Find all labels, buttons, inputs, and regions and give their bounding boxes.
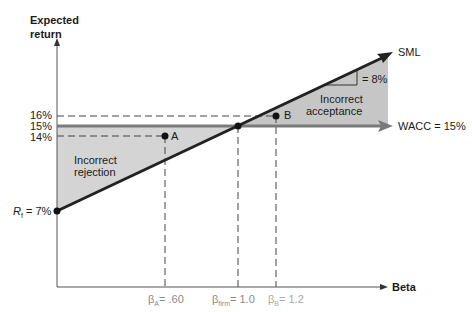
point-b-label: B bbox=[284, 109, 291, 122]
beta-firm-sub: firm bbox=[218, 300, 230, 307]
beta-a-value: = .60 bbox=[159, 293, 184, 305]
beta-b-label: βB= 1.2 bbox=[268, 293, 304, 310]
wacc-label: WACC = 15% bbox=[398, 120, 466, 133]
beta-a-label: βA= .60 bbox=[148, 293, 184, 310]
slope-annotation: = 8% bbox=[362, 73, 387, 86]
y-axis-label-line2: return bbox=[30, 28, 62, 41]
x-axis-arrow-icon bbox=[380, 284, 388, 290]
point-firm bbox=[235, 123, 242, 130]
rf-symbol: R bbox=[13, 205, 21, 217]
incorrect-acceptance-line2: acceptance bbox=[306, 105, 362, 118]
beta-firm-label: βfirm= 1.0 bbox=[212, 293, 255, 310]
point-a-label: A bbox=[171, 130, 178, 143]
y-tick-14: 14% bbox=[20, 131, 52, 144]
incorrect-rejection-line2: rejection bbox=[74, 166, 116, 179]
point-b bbox=[273, 113, 280, 120]
x-axis-label: Beta bbox=[392, 281, 416, 294]
point-rf bbox=[54, 208, 61, 215]
beta-firm-value: = 1.0 bbox=[230, 293, 255, 305]
rf-value: = 7% bbox=[26, 205, 51, 217]
point-a bbox=[162, 133, 169, 140]
rf-subscript: f bbox=[21, 212, 23, 219]
rf-label: Rf = 7% bbox=[13, 205, 51, 222]
beta-b-value: = 1.2 bbox=[279, 293, 304, 305]
sml-label: SML bbox=[398, 46, 421, 59]
y-axis-label-line1: Expected bbox=[30, 14, 79, 27]
